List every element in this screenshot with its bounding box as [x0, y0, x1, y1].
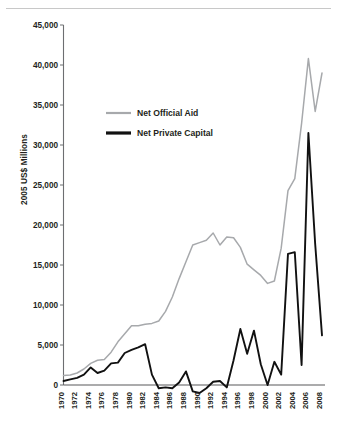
x-axis-tick-label: 2008 — [315, 392, 324, 409]
x-axis-tick-label: 1992 — [206, 392, 215, 409]
x-axis-tick-label: 2000 — [261, 392, 270, 409]
line-chart-plot: 05,00010,00015,00020,00025,00030,00035,0… — [0, 0, 337, 440]
x-axis-tick-label: 1980 — [125, 392, 134, 409]
y-axis-tick-label: 5,000 — [38, 341, 59, 350]
x-axis-tick-label: 1990 — [193, 392, 202, 409]
y-axis-tick-label: 20,000 — [33, 221, 58, 230]
x-axis-tick-label: 1974 — [84, 391, 93, 409]
x-axis-tick-label: 1988 — [179, 392, 188, 409]
series-line-net-private-capital — [64, 133, 323, 393]
y-axis-tick-label: 35,000 — [33, 101, 58, 110]
x-axis-tick-labels: 1970197219741976197819801982198419861988… — [57, 391, 325, 409]
x-axis-tick-label: 1970 — [57, 392, 66, 409]
y-axis-tick-labels: 05,00010,00015,00020,00025,00030,00035,0… — [33, 21, 58, 390]
x-axis-tick-label: 1998 — [247, 392, 256, 409]
legend-label-net-official-aid: Net Official Aid — [137, 108, 198, 118]
x-axis-tick-label: 1996 — [233, 392, 242, 409]
x-axis-tick-label: 1978 — [111, 392, 120, 409]
x-axis-tick-label: 2006 — [301, 392, 310, 409]
y-axis-tick-label: 25,000 — [33, 181, 58, 190]
x-axis-tick-label: 1982 — [138, 392, 147, 409]
x-axis-tick-label: 1984 — [152, 391, 161, 409]
y-axis-tick-label: 30,000 — [33, 141, 58, 150]
x-axis-tick-label: 2004 — [288, 391, 297, 409]
y-axis-tick-label: 45,000 — [33, 21, 58, 30]
y-axis-tick-label: 0 — [53, 381, 58, 390]
y-axis-tick-label: 10,000 — [33, 301, 58, 310]
chart-figure: 2005 US$ Millions 05,00010,00015,00020,0… — [0, 0, 337, 440]
x-axis-tick-label: 1994 — [220, 391, 229, 409]
x-axis-tick-label: 2002 — [274, 392, 283, 409]
legend-label-net-private-capital: Net Private Capital — [137, 128, 213, 138]
chart-legend: Net Official Aid Net Private Capital — [106, 108, 213, 138]
x-axis-tick-label: 1972 — [70, 392, 79, 409]
x-axis-tick-label: 1986 — [165, 392, 174, 409]
y-axis-tick-label: 40,000 — [33, 61, 58, 70]
y-axis-tick-label: 15,000 — [33, 261, 58, 270]
x-axis-tick-label: 1976 — [97, 392, 106, 409]
